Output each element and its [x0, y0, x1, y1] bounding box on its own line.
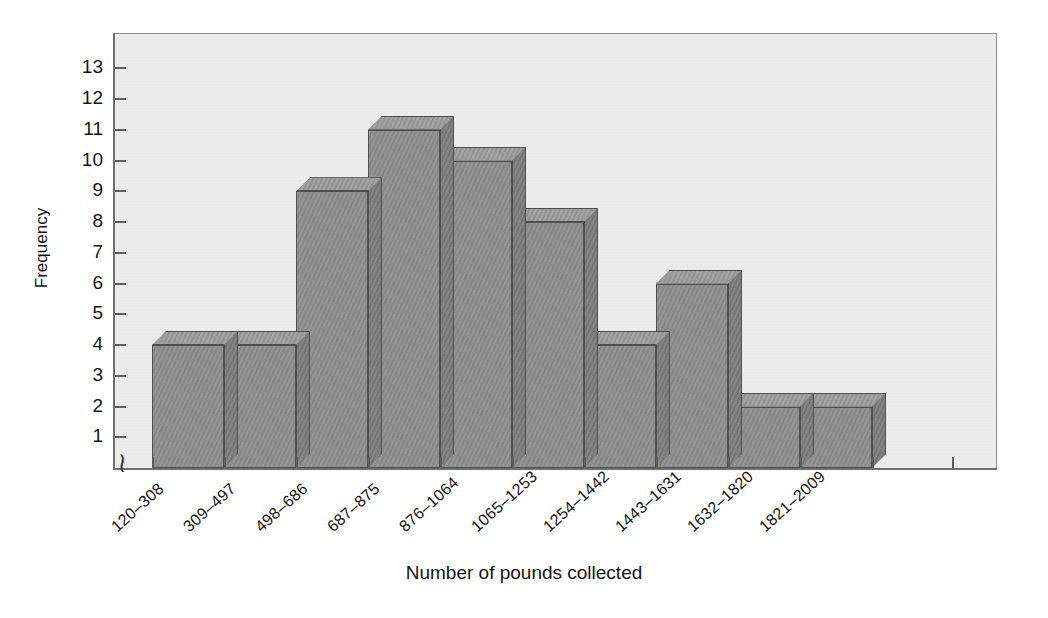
- bar-side-face: [368, 177, 382, 468]
- x-axis-tick: [296, 457, 298, 468]
- x-axis-tick: [224, 457, 226, 468]
- bar-top-face: [152, 331, 238, 345]
- x-axis-tick: [584, 457, 586, 468]
- bar-side-face: [584, 208, 598, 468]
- x-axis-tick: [800, 457, 802, 468]
- bar-side-face: [656, 331, 670, 468]
- axis-break-icon: ≀: [118, 449, 124, 477]
- bar-top-face: [368, 116, 454, 130]
- y-axis-line: [113, 33, 115, 470]
- x-axis-tick: [152, 457, 154, 468]
- histogram-bar: [152, 331, 238, 468]
- bar-top-face: [296, 177, 382, 191]
- bars-layer: [0, 0, 1048, 618]
- bar-side-face: [224, 331, 238, 468]
- x-axis-tick: [728, 457, 730, 468]
- bar-front-face: [152, 345, 224, 468]
- bar-side-face: [512, 147, 526, 469]
- x-axis-tick: [872, 457, 874, 468]
- y-axis-title: Frequency: [32, 168, 52, 328]
- x-axis-tick: [656, 457, 658, 468]
- x-axis-tick: [440, 457, 442, 468]
- x-axis-end-tick: [952, 457, 954, 468]
- bar-side-face: [296, 331, 310, 468]
- bar-side-face: [728, 270, 742, 469]
- bar-side-face: [440, 116, 454, 468]
- x-axis-tick: [512, 457, 514, 468]
- x-axis-tick: [368, 457, 370, 468]
- histogram-figure: 12345678910111213 ≀ Frequency 120–308309…: [0, 0, 1048, 618]
- x-axis-line: [113, 468, 997, 470]
- x-axis-title: Number of pounds collected: [0, 562, 1048, 584]
- bar-top-face: [656, 270, 742, 284]
